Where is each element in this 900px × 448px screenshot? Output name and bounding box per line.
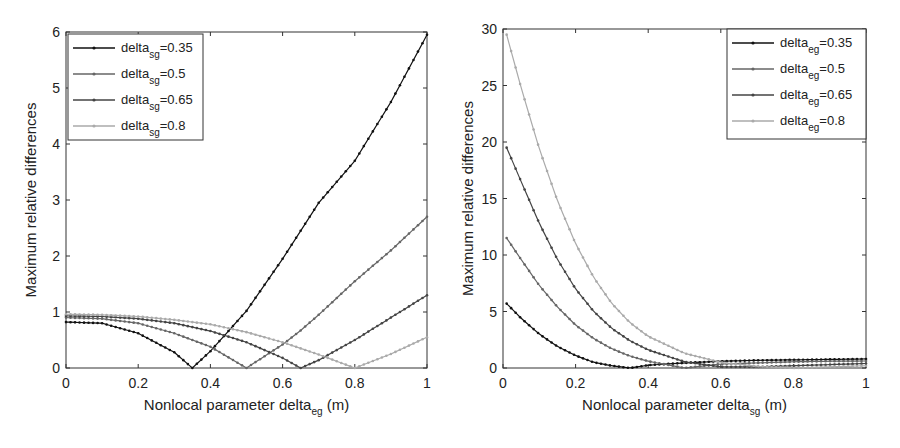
legend: deltasg=0.35deltasg=0.5deltasg=0.65delta… [68,34,203,140]
chart-panel-2: 00.20.40.60.81051015202530Nonlocal param… [459,21,870,417]
x-tick-label: 0 [499,375,507,391]
y-tick-label: 0 [489,360,497,376]
series-delta-eg-0-5 [505,237,867,369]
x-tick-label: 0.6 [273,375,293,391]
x-tick-label: 0.2 [566,375,586,391]
y-tick-label: 4 [52,136,60,152]
y-tick-label: 5 [52,80,60,96]
legend: deltaeg=0.35deltaeg=0.5deltaeg=0.65delta… [727,29,866,139]
x-tick-label: 0.4 [201,375,221,391]
x-tick-label: 0.4 [638,375,658,391]
x-tick-label: 0.8 [784,375,804,391]
x-tick-label: 0 [62,375,70,391]
y-tick-label: 3 [52,192,60,208]
y-tick-label: 0 [52,360,60,376]
y-tick-label: 5 [489,304,497,320]
series-delta-sg-0-5 [65,216,429,370]
x-tick-label: 1 [862,375,870,391]
x-axis-label: Nonlocal parameter deltasg (m) [582,396,787,417]
y-tick-label: 1 [52,304,60,320]
chart-panel-1: 00.20.40.60.810123456Nonlocal parameter … [22,24,431,417]
x-tick-label: 0.6 [711,375,731,391]
series-delta-eg-0-65 [505,146,867,368]
y-tick-label: 6 [52,24,60,40]
y-tick-label: 15 [481,191,497,207]
x-tick-label: 0.8 [345,375,365,391]
y-tick-label: 20 [481,134,497,150]
y-axis-label: Maximum relative differences [22,103,39,298]
y-tick-label: 30 [481,21,497,37]
y-tick-label: 10 [481,247,497,263]
x-tick-label: 0.2 [128,375,148,391]
chart-figure: 00.20.40.60.810123456Nonlocal parameter … [0,0,900,448]
y-tick-label: 2 [52,248,60,264]
x-tick-label: 1 [423,375,431,391]
x-axis-label: Nonlocal parameter deltaeg (m) [144,396,349,417]
y-tick-label: 25 [481,78,497,94]
y-axis-label: Maximum relative differences [459,101,476,296]
series-delta-eg-0-35 [505,302,867,369]
